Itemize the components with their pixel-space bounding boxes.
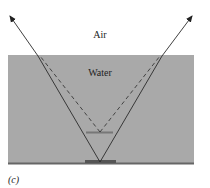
water-label: Water bbox=[88, 67, 112, 78]
figure-caption: (c) bbox=[8, 174, 19, 185]
air-label: Air bbox=[93, 29, 106, 40]
